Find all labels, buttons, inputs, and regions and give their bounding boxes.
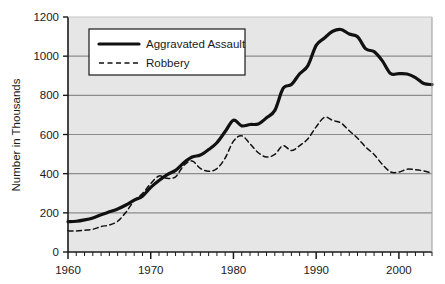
y-tick-label: 200 — [40, 207, 59, 219]
line-chart: 020040060080010001200 196019701980199020… — [0, 0, 445, 284]
y-tick-label: 800 — [40, 89, 59, 101]
x-tick-label: 1980 — [221, 264, 247, 276]
x-tick-label: 1960 — [55, 264, 81, 276]
y-tick-label: 1000 — [33, 50, 59, 62]
x-tick-label: 1990 — [303, 264, 329, 276]
legend-label-robbery: Robbery — [146, 57, 190, 69]
legend-label-aggravated-assault: Aggravated Assault — [146, 38, 246, 50]
x-axis-tick-labels: 19601970198019902000 — [55, 264, 412, 276]
chart-container: 020040060080010001200 196019701980199020… — [0, 0, 445, 284]
x-tick-label: 2000 — [386, 264, 412, 276]
y-tick-label: 600 — [40, 129, 59, 141]
y-tick-label: 0 — [53, 246, 59, 258]
y-tick-label: 400 — [40, 168, 59, 180]
y-axis-tick-labels: 020040060080010001200 — [33, 11, 59, 258]
x-tick-label: 1970 — [138, 264, 164, 276]
y-axis-title: Number in Thousands — [10, 78, 22, 191]
chart-legend: Aggravated Assault Robbery — [89, 29, 246, 75]
y-tick-label: 1200 — [33, 11, 59, 23]
